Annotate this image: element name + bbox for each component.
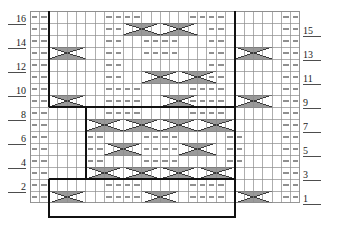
purl-dash-4: [125, 16, 130, 18]
purl-dash-146: [190, 184, 195, 186]
purl-dash-56: [209, 76, 214, 78]
purl-dash-142: [106, 184, 111, 186]
purl-dash-54: [106, 76, 111, 78]
purl-dash-45: [41, 64, 46, 66]
purl-dash-9: [218, 16, 223, 18]
purl-dash-34: [106, 52, 111, 54]
purl-dash-31: [293, 40, 298, 42]
row-label-left-4: 4: [8, 158, 26, 169]
purl-dash-14: [106, 28, 111, 30]
purl-dash-30: [283, 40, 288, 42]
purl-dash-28: [209, 40, 214, 42]
purl-dash-12: [32, 28, 37, 30]
purl-dash-36: [144, 52, 149, 54]
row-label-left-2: 2: [8, 182, 26, 193]
purl-dash-89: [134, 112, 139, 114]
purl-dash-39: [172, 52, 177, 54]
purl-dash-94: [283, 112, 288, 114]
purl-dash-91: [200, 112, 205, 114]
purl-dash-126: [88, 160, 93, 162]
purl-dash-118: [162, 148, 167, 150]
purl-dash-11: [293, 16, 298, 18]
repeat-bracket-path: [49, 203, 235, 217]
purl-dash-137: [41, 172, 46, 174]
purl-dash-88: [125, 112, 130, 114]
purl-dash-141: [41, 184, 46, 186]
purl-dash-145: [134, 184, 139, 186]
purl-dash-151: [293, 184, 298, 186]
purl-dash-96: [32, 124, 37, 126]
purl-dash-58: [283, 76, 288, 78]
purl-dash-163: [293, 196, 298, 198]
purl-dash-49: [218, 64, 223, 66]
purl-dash-152: [32, 196, 37, 198]
purl-dash-158: [190, 196, 195, 198]
purl-dash-105: [153, 136, 158, 138]
row-label-left-8: 8: [8, 110, 26, 121]
purl-dash-127: [97, 160, 102, 162]
purl-dash-153: [41, 196, 46, 198]
purl-dash-38: [162, 52, 167, 54]
purl-dash-111: [293, 136, 298, 138]
purl-dash-115: [97, 148, 102, 150]
purl-dash-70: [283, 88, 288, 90]
purl-dash-69: [218, 88, 223, 90]
purl-dash-102: [88, 136, 93, 138]
purl-dash-67: [200, 88, 205, 90]
purl-dash-156: [125, 196, 130, 198]
purl-dash-84: [32, 112, 37, 114]
purl-dash-41: [218, 52, 223, 54]
purl-dash-50: [283, 64, 288, 66]
purl-dash-125: [41, 160, 46, 162]
purl-dash-77: [134, 100, 139, 102]
purl-dash-65: [134, 88, 139, 90]
purl-dash-19: [293, 28, 298, 30]
purl-dash-76: [125, 100, 130, 102]
purl-dash-75: [116, 100, 121, 102]
purl-dash-68: [209, 88, 214, 90]
row-label-right-3: 3: [303, 170, 321, 181]
purl-dash-149: [218, 184, 223, 186]
purl-dash-133: [237, 160, 242, 162]
purl-dash-13: [41, 28, 46, 30]
purl-dash-74: [106, 100, 111, 102]
purl-dash-40: [209, 52, 214, 54]
purl-dash-23: [116, 40, 121, 42]
row-label-left-12: 12: [8, 62, 26, 73]
purl-dash-57: [218, 76, 223, 78]
row-label-right-5: 5: [303, 146, 321, 157]
purl-dash-155: [116, 196, 121, 198]
row-label-right-13: 13: [303, 50, 321, 61]
purl-dash-33: [41, 52, 46, 54]
row-label-right-15: 15: [303, 26, 321, 37]
purl-dash-61: [41, 88, 46, 90]
purl-dash-35: [116, 52, 121, 54]
purl-dash-117: [153, 148, 158, 150]
purl-dash-87: [116, 112, 121, 114]
purl-dash-95: [293, 112, 298, 114]
purl-dash-25: [153, 40, 158, 42]
purl-dash-7: [200, 16, 205, 18]
purl-dash-116: [144, 148, 149, 150]
knitting-chart: 16 14 12 10 8 6 4 2 15 13 11 9 7 5 3 1: [0, 0, 337, 226]
purl-dash-8: [209, 16, 214, 18]
purl-dash-154: [106, 196, 111, 198]
purl-dash-59: [293, 76, 298, 78]
purl-dash-42: [283, 52, 288, 54]
purl-dash-113: [41, 148, 46, 150]
purl-dash-20: [32, 40, 37, 42]
purl-dash-43: [293, 52, 298, 54]
purl-dash-64: [125, 88, 130, 90]
purl-dash-32: [32, 52, 37, 54]
purl-dash-79: [200, 100, 205, 102]
purl-dash-147: [200, 184, 205, 186]
row-label-left-6: 6: [8, 134, 26, 145]
purl-dash-129: [153, 160, 158, 162]
purl-dash-101: [41, 136, 46, 138]
purl-dash-121: [237, 148, 242, 150]
purl-dash-22: [106, 40, 111, 42]
purl-dash-51: [293, 64, 298, 66]
row-label-right-9: 9: [303, 98, 321, 109]
purl-dash-86: [106, 112, 111, 114]
purl-dash-110: [283, 136, 288, 138]
